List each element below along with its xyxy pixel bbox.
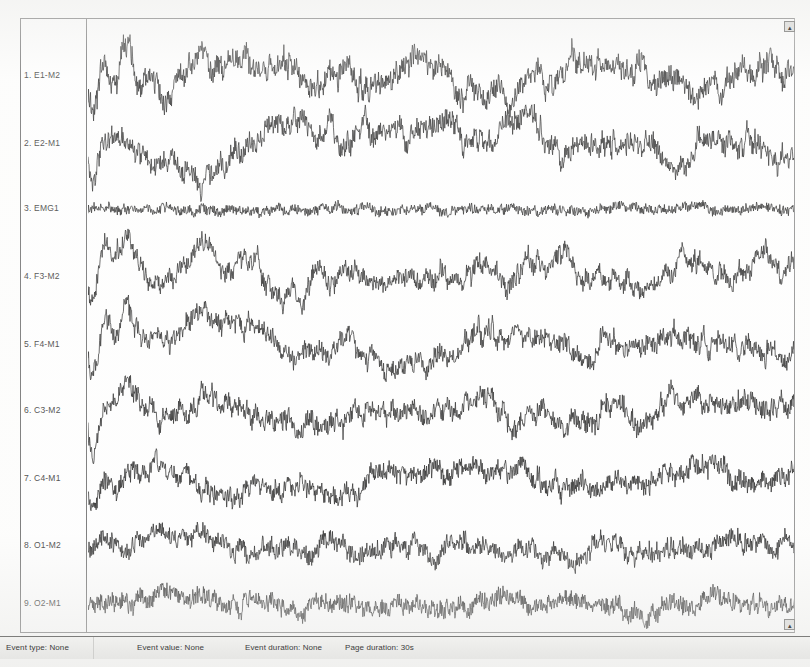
channel-label-o1-m2[interactable]: 8. O1-M2 [24,540,88,550]
trace-e2-m1 [88,104,794,201]
channel-label-panel: 1. E1-M22. E2-M13. EMG14. F3-M25. F4-M16… [21,19,87,632]
channel-label-c4-m1[interactable]: 7. C4-M1 [24,473,88,483]
status-page-duration: Page duration: 30s [345,643,414,652]
trace-c4-m1 [88,449,794,511]
chevron-up-icon: ▴ [788,23,792,30]
psg-viewer: 1. E1-M22. E2-M13. EMG14. F3-M25. F4-M16… [0,0,810,667]
channel-label-c3-m2[interactable]: 6. C3-M2 [24,405,88,415]
trace-o2-m1 [88,583,794,629]
status-event-duration: Event duration: None [245,643,322,652]
channel-label-o2-m1[interactable]: 9. O2-M1 [24,598,88,608]
scroll-up-button[interactable]: ▴ [784,21,795,32]
channel-label-f4-m1[interactable]: 5. F4-M1 [24,339,88,349]
signal-traces-svg [88,19,794,632]
scroll-down-button[interactable]: ▴ [784,619,795,630]
status-bar: Event type: None Event value: None Event… [0,636,810,659]
channel-label-e2-m1[interactable]: 2. E2-M1 [24,138,88,148]
chevron-up-icon: ▴ [788,621,792,628]
status-event-type: Event type: None [6,643,69,652]
trace-e1-m2 [88,35,794,121]
signal-chart-frame: 1. E1-M22. E2-M13. EMG14. F3-M25. F4-M16… [20,18,795,633]
trace-emg1 [88,200,794,218]
trace-c3-m2 [88,375,794,463]
signal-trace-area[interactable] [88,19,794,632]
status-event-value: Event value: None [137,643,204,652]
channel-label-e1-m2[interactable]: 1. E1-M2 [24,70,88,80]
trace-o1-m2 [88,522,794,574]
trace-f3-m2 [88,229,794,315]
channel-label-f3-m2[interactable]: 4. F3-M2 [24,271,88,281]
channel-label-emg1[interactable]: 3. EMG1 [24,203,88,213]
status-separator [93,637,94,659]
trace-f4-m1 [88,295,794,382]
